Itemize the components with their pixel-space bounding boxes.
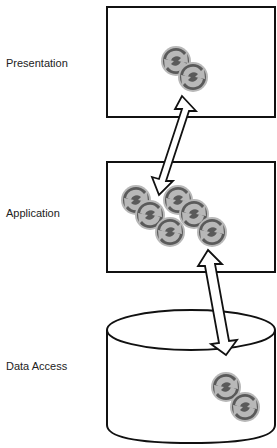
component-icon — [178, 62, 208, 92]
presentation-box — [107, 7, 275, 117]
component-icon — [230, 392, 260, 422]
component-icon — [197, 217, 227, 247]
component-icon — [155, 217, 185, 247]
data-access-cylinder — [107, 310, 275, 443]
architecture-diagram — [0, 0, 277, 448]
